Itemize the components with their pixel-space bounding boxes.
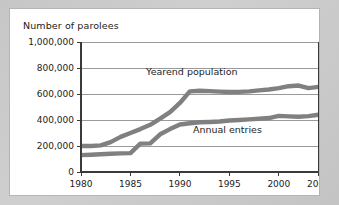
x-axis-tick-label: 1985 [119,179,142,189]
series-annotations: Yearend populationAnnual entries [145,66,262,135]
x-axis-tick-label: 2000 [267,179,290,189]
y-axis-tick-label: 800,000 [37,63,74,73]
line-chart-plot: 0200,000400,000600,000800,0001,000,000 1… [10,9,319,195]
figure-root: Number of parolees 0200,000400,000600,00… [0,0,339,205]
y-axis-tick-label: 200,000 [37,141,74,151]
x-axis-tick-labels: 198019851990199520002004 [70,172,319,189]
y-axis-tick-labels: 0200,000400,000600,000800,0001,000,000 [28,37,74,177]
chart-panel: Number of parolees 0200,000400,000600,00… [9,8,320,196]
y-axis-tick-label: 600,000 [37,89,74,99]
x-axis-tick-label: 1990 [168,179,191,189]
x-axis-tick-label: 1980 [70,179,93,189]
x-axis-tick-label: 2004 [307,179,319,189]
series-annotation-label: Yearend population [145,66,237,77]
series-annotation-label: Annual entries [193,124,262,135]
y-axis-tick-label: 0 [68,167,74,177]
y-axis-tick-label: 400,000 [37,115,74,125]
y-axis-tick-label: 1,000,000 [28,37,74,47]
x-axis-tick-label: 1995 [218,179,241,189]
